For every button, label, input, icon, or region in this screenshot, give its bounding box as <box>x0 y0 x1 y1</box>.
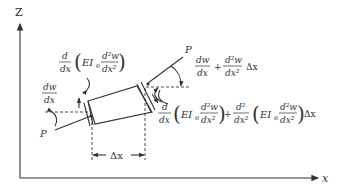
svg-text:dx²: dx² <box>280 115 295 125</box>
svg-text:dw: dw <box>196 55 210 65</box>
svg-text:d: d <box>162 102 168 112</box>
svg-text:d²w: d²w <box>225 55 242 65</box>
svg-text:): ) <box>118 50 126 74</box>
right-moment-label: d dx ( EI e d²w dx² ) + d² dx² ( EI e d²… <box>158 102 316 126</box>
svg-text:EI: EI <box>81 57 94 68</box>
z-axis: Z <box>15 6 23 178</box>
svg-text:e: e <box>195 114 199 122</box>
svg-text:dx: dx <box>44 95 55 105</box>
svg-text:(: ( <box>173 102 181 126</box>
svg-text:dx²: dx² <box>201 115 216 125</box>
svg-text:dx²: dx² <box>102 64 117 74</box>
x-axis: x <box>20 172 329 185</box>
beam-diagram: Z x P P Δx <box>0 0 338 193</box>
svg-text:EI: EI <box>259 109 272 120</box>
svg-text:dw: dw <box>43 82 57 92</box>
svg-text:e: e <box>96 62 100 70</box>
left-force: P <box>39 114 93 139</box>
svg-text:(: ( <box>252 102 260 126</box>
svg-text:dx: dx <box>197 68 208 78</box>
z-axis-label: Z <box>15 6 23 19</box>
right-slope-arc <box>171 66 181 86</box>
svg-text:dx: dx <box>159 115 170 125</box>
beam-element <box>88 86 152 124</box>
svg-text:EI: EI <box>180 109 193 120</box>
svg-text:dx: dx <box>60 64 71 74</box>
left-force-label: P <box>39 128 47 139</box>
right-slope-label: dw dx + d²w dx² Δx <box>195 55 258 78</box>
delta-x-label: Δx <box>110 150 123 161</box>
right-force-label: P <box>184 44 192 55</box>
left-moment-label: d dx ( EI e d²w dx² ) <box>59 50 126 74</box>
svg-text:Δx: Δx <box>304 109 316 119</box>
svg-text:Δx: Δx <box>246 62 258 72</box>
left-moment-arrow <box>87 78 90 90</box>
svg-text:+: + <box>214 62 222 72</box>
right-section <box>137 82 155 112</box>
svg-text:d²w: d²w <box>201 102 218 112</box>
svg-text:dx²: dx² <box>225 68 240 78</box>
svg-text:+: + <box>224 109 232 119</box>
x-axis-label: x <box>322 172 329 185</box>
svg-text:dx²: dx² <box>234 115 249 125</box>
delta-x-dimension: Δx <box>93 150 144 161</box>
svg-text:d: d <box>62 51 68 61</box>
right-force: P <box>146 44 192 86</box>
svg-text:e: e <box>274 114 278 122</box>
svg-text:(: ( <box>74 50 82 74</box>
svg-text:d²w: d²w <box>102 51 119 61</box>
left-slope-label: dw dx <box>42 82 57 105</box>
svg-text:d²: d² <box>236 102 246 112</box>
left-slope-arc <box>52 112 57 126</box>
svg-text:d²w: d²w <box>280 102 297 112</box>
